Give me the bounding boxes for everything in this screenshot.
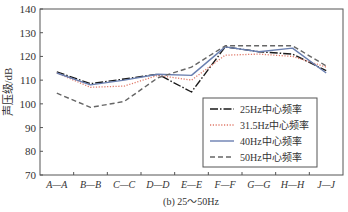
x-tick-label: C—C — [113, 179, 136, 190]
x-tick-label: E—E — [180, 179, 202, 190]
y-axis-label: 声压级/dB — [1, 68, 14, 117]
y-tick-label: 70 — [25, 169, 37, 181]
y-axis-ticks: 708090100110120130140 — [20, 3, 44, 181]
y-tick-label: 90 — [25, 122, 37, 134]
y-tick-label: 130 — [20, 27, 37, 39]
series-line-2 — [57, 47, 326, 85]
x-tick-label: H—H — [280, 179, 305, 190]
x-tick-label: F—F — [214, 179, 237, 190]
legend-label-1: 31.5Hz中心频率 — [240, 119, 309, 131]
legend: 25Hz中心频率31.5Hz中心频率40Hz中心频率50Hz中心频率 — [203, 98, 317, 167]
x-tick-label: B—B — [80, 179, 101, 190]
legend-label-2: 40Hz中心频率 — [240, 135, 302, 147]
chart-caption: (b) 25～50Hz — [163, 196, 219, 208]
legend-label-0: 25Hz中心频率 — [240, 103, 302, 115]
x-tick-label: J—J — [317, 179, 335, 190]
x-tick-label: A—A — [45, 179, 68, 190]
series-line-0 — [57, 47, 326, 92]
x-tick-label: G—G — [247, 179, 270, 190]
y-tick-label: 100 — [20, 98, 37, 110]
x-tick-label: D—D — [145, 179, 170, 190]
line-chart: 708090100110120130140 A—AB—BC—CD—DE—EF—F… — [0, 0, 348, 212]
y-tick-label: 140 — [20, 3, 37, 15]
y-tick-label: 80 — [25, 145, 37, 157]
legend-label-3: 50Hz中心频率 — [240, 151, 302, 163]
y-tick-label: 110 — [20, 74, 37, 86]
y-tick-label: 120 — [20, 50, 37, 62]
